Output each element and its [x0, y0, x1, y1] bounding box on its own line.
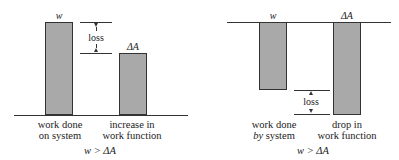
left-bar2-label: ΔA: [120, 42, 146, 52]
right-relation: w > ΔA: [283, 145, 343, 156]
left-caption1-line2: on system: [24, 130, 96, 141]
right-loss-arrow-icon-2: [309, 109, 313, 113]
right-baseline: [227, 22, 391, 23]
left-baseline: [14, 115, 188, 116]
left-loss-arrow-shaft: [96, 27, 97, 31]
left-caption2-line1: increase in: [94, 119, 170, 130]
left-loss-arrow-icon-2: [94, 48, 98, 52]
right-caption1-by: by: [253, 130, 263, 141]
right-caption2-line2: work function: [309, 130, 385, 141]
left-loss-bottom-line: [80, 53, 112, 54]
left-bar1-label: w: [48, 11, 70, 21]
left-bar-increase: [119, 53, 147, 115]
left-bar-work-done: [45, 22, 73, 115]
right-loss-label: loss: [299, 97, 323, 107]
left-loss-label: loss: [84, 33, 108, 43]
right-caption1-line1: work done: [238, 119, 310, 130]
right-loss-arrow-icon: [309, 91, 313, 95]
left-caption1-line1: work done: [24, 119, 96, 130]
left-caption2-line2: work function: [94, 130, 170, 141]
right-bar1-label: w: [262, 11, 284, 21]
right-caption2-line1: drop in: [309, 119, 385, 130]
right-loss-bottom-line: [294, 114, 330, 115]
right-caption1-system: system: [263, 130, 295, 141]
right-bar-drop: [333, 22, 361, 115]
right-bar-work-done: [259, 22, 287, 90]
right-bar2-label: ΔA: [334, 11, 360, 21]
left-relation: w > ΔA: [70, 145, 130, 156]
right-caption1-line2: by system: [238, 130, 310, 141]
